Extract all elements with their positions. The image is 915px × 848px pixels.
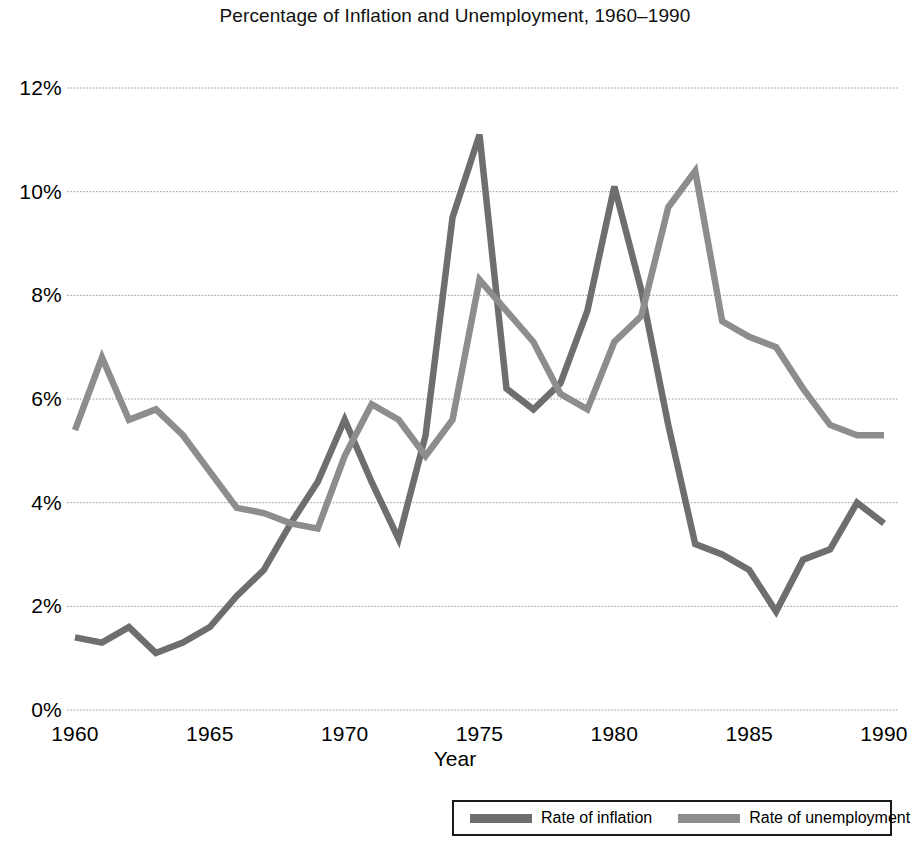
x-tick-label: 1980 <box>569 722 659 746</box>
line-chart-svg <box>0 0 910 760</box>
x-tick-label: 1985 <box>704 722 794 746</box>
legend-entry-inflation: Rate of inflation <box>470 802 652 834</box>
x-tick-label: 1965 <box>165 722 255 746</box>
legend-entry-unemployment: Rate of unemployment <box>678 802 910 834</box>
legend-swatch-inflation <box>470 814 532 823</box>
series-line-inflation <box>75 135 884 653</box>
x-tick-label: 1990 <box>839 722 915 746</box>
y-tick-label: 4% <box>0 491 62 515</box>
y-tick-label: 12% <box>0 76 62 100</box>
x-tick-label: 1970 <box>300 722 390 746</box>
legend-label-inflation: Rate of inflation <box>541 809 652 827</box>
x-axis-title: Year <box>0 747 910 771</box>
x-tick-label: 1975 <box>435 722 525 746</box>
y-tick-label: 8% <box>0 283 62 307</box>
plot-area: 0%2%4%6%8%10%12% 19601965197019751980198… <box>0 0 910 760</box>
x-tick-label: 1960 <box>30 722 120 746</box>
y-tick-label: 6% <box>0 387 62 411</box>
legend-swatch-unemployment <box>678 814 740 823</box>
y-tick-label: 0% <box>0 698 62 722</box>
y-tick-label: 10% <box>0 180 62 204</box>
chart-legend: Rate of inflation Rate of unemployment <box>452 800 892 836</box>
series-lines-group <box>75 135 884 653</box>
series-line-unemployment <box>75 171 884 529</box>
y-tick-label: 2% <box>0 594 62 618</box>
legend-label-unemployment: Rate of unemployment <box>749 809 910 827</box>
